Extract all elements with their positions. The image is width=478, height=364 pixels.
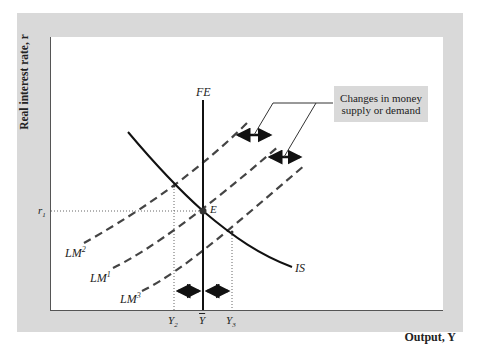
ybar-tick-label: Y: [199, 314, 205, 326]
equilibrium-point: [200, 208, 207, 215]
lm2-curve: [84, 122, 248, 243]
lm3-label: LM3: [120, 291, 141, 307]
y2-tick-label: Y2: [168, 314, 178, 329]
callout-leaders: [254, 103, 333, 157]
lm1-label: LM1: [90, 270, 111, 286]
callout-line-1: Changes in money: [334, 92, 428, 104]
fe-label: FE: [196, 85, 211, 100]
callout-line-2: supply or demand: [334, 104, 428, 116]
r1-label: r1: [38, 204, 46, 219]
callout-box: Changes in money supply or demand: [334, 86, 428, 122]
lm2-label: LM2: [65, 245, 86, 261]
is-lm-fe-diagram: [0, 0, 478, 364]
is-label: IS: [295, 261, 305, 276]
y3-tick-label: Y3: [226, 314, 236, 329]
x-axis-label: Output, Y: [404, 330, 456, 345]
e-label: E: [210, 203, 217, 215]
